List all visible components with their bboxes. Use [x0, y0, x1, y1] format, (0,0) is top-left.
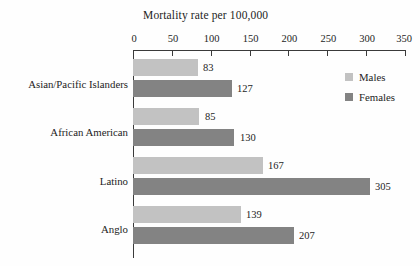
bar-value-asian-pacific-islanders-females: 127 — [237, 80, 253, 97]
bar-latino-males — [133, 157, 263, 174]
x-axis-line — [133, 50, 405, 51]
tick-mark-150 — [250, 50, 251, 56]
bar-chart: Mortality rate per 100,000 0 50 100 150 … — [0, 0, 420, 266]
legend-item-females: Females — [345, 88, 395, 105]
tick-mark-50 — [172, 50, 173, 56]
chart-title: Mortality rate per 100,000 — [143, 9, 268, 21]
bar-value-african-american-females: 130 — [240, 129, 256, 146]
tick-label-250: 250 — [320, 33, 336, 44]
tick-mark-200 — [288, 50, 289, 56]
bar-value-anglo-females: 207 — [299, 227, 315, 244]
category-label-african-american: African American — [5, 126, 133, 138]
bar-asian-pacific-islanders-females — [133, 80, 232, 97]
x-axis-end-tick — [405, 50, 406, 56]
bar-african-american-females — [133, 129, 234, 146]
bar-value-latino-males: 167 — [268, 157, 284, 174]
tick-label-200: 200 — [282, 33, 298, 44]
tick-mark-100 — [211, 50, 212, 56]
legend-label-males: Males — [359, 71, 385, 83]
category-label-anglo: Anglo — [5, 223, 133, 235]
tick-label-100: 100 — [204, 33, 220, 44]
tick-mark-0 — [133, 50, 134, 56]
tick-label-150: 150 — [243, 33, 259, 44]
legend-swatch-females-icon — [345, 93, 353, 101]
tick-mark-250 — [327, 50, 328, 56]
category-label-asian-pacific-islanders: Asian/Pacific Islanders — [5, 78, 133, 90]
bar-anglo-males — [133, 206, 241, 223]
tick-label-300: 300 — [359, 33, 375, 44]
bar-value-african-american-males: 85 — [205, 108, 216, 125]
bar-value-latino-females: 305 — [375, 178, 391, 195]
legend-swatch-males-icon — [345, 73, 353, 81]
tick-mark-300 — [366, 50, 367, 56]
bar-latino-females — [133, 178, 370, 195]
legend-item-males: Males — [345, 68, 395, 85]
tick-label-50: 50 — [168, 33, 179, 44]
category-label-latino: Latino — [5, 175, 133, 187]
bar-anglo-females — [133, 227, 294, 244]
bar-asian-pacific-islanders-males — [133, 59, 198, 76]
bar-african-american-males — [133, 108, 199, 125]
legend-label-females: Females — [359, 91, 395, 103]
tick-label-350: 350 — [396, 33, 412, 44]
bar-value-anglo-males: 139 — [246, 206, 262, 223]
bar-value-asian-pacific-islanders-males: 83 — [203, 59, 214, 76]
chart-legend: Males Females — [345, 68, 395, 108]
y-axis-category-labels: Asian/Pacific Islanders African American… — [0, 0, 133, 266]
